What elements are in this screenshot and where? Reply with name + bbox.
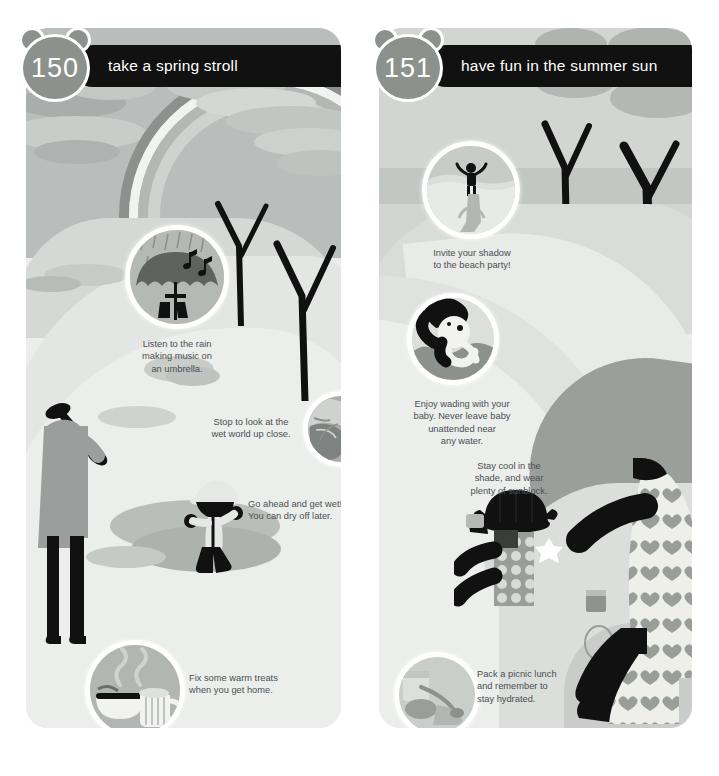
badge-number: 151 xyxy=(384,53,432,84)
header-bar-summer: have fun in the summer sun xyxy=(425,45,692,87)
caption-wading-baby: Enjoy wading with your baby. Never leave… xyxy=(397,398,527,448)
panel-summer: Invite your shadow to the beach party! xyxy=(379,28,692,728)
callout-picnic-lunch[interactable] xyxy=(394,652,480,728)
badge-head: 150 xyxy=(20,34,90,102)
baby-figure xyxy=(454,480,589,634)
callout-wading-baby[interactable] xyxy=(407,293,499,385)
caption-umbrella-rain: Listen to the rain making music on an um… xyxy=(119,338,235,375)
caption-shadow-party: Invite your shadow to the beach party! xyxy=(414,247,530,272)
panel-spring: Listen to the rain making music on an um… xyxy=(26,28,341,728)
header-bar-spring: take a spring stroll xyxy=(72,45,341,87)
callout-umbrella-rain[interactable] xyxy=(125,225,229,329)
child-splashing xyxy=(174,473,264,585)
caption-picnic-lunch: Pack a picnic lunch and remember to stay… xyxy=(477,668,597,705)
badge-151: 151 xyxy=(370,27,446,103)
callout-wet-world[interactable] xyxy=(303,391,341,467)
badge-number: 150 xyxy=(31,53,79,84)
header-title-summer: have fun in the summer sun xyxy=(461,57,657,75)
cloud-shape xyxy=(34,140,120,164)
page-root: Listen to the rain making music on an um… xyxy=(0,0,719,776)
header-title-spring: take a spring stroll xyxy=(108,57,238,75)
caption-wet-world: Stop to look at the wet world up close. xyxy=(198,416,304,441)
callout-warm-treats[interactable] xyxy=(85,640,185,728)
scene-summer: Invite your shadow to the beach party! xyxy=(379,28,692,728)
caption-warm-treats: Fix some warm treats when you get home. xyxy=(189,672,315,697)
scene-spring: Listen to the rain making music on an um… xyxy=(26,28,341,728)
badge-head: 151 xyxy=(373,34,443,102)
badge-150: 150 xyxy=(17,27,93,103)
callout-shadow-party[interactable] xyxy=(422,141,520,239)
caption-get-wet: Go ahead and get wet! You can dry off la… xyxy=(248,498,341,523)
caption-stay-cool: Stay cool in the shade, and wear plenty … xyxy=(449,460,569,497)
